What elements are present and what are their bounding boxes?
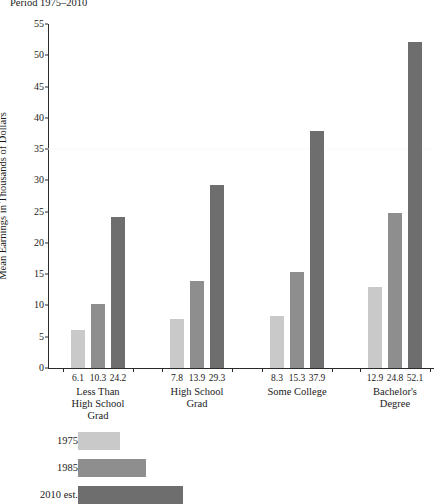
y-tick-label: 40 xyxy=(34,113,44,123)
y-tick-label: 25 xyxy=(34,207,44,217)
bar-value-label: 15.3 xyxy=(289,373,306,384)
chart-title: Period 1975–2010 xyxy=(10,0,87,9)
y-tick-label: 50 xyxy=(34,50,44,60)
bar-value-label: 8.3 xyxy=(271,373,283,384)
bar xyxy=(408,42,422,368)
x-axis-group-label: Bachelor's Degree xyxy=(373,386,418,410)
x-axis-group-tick xyxy=(232,368,233,372)
bar-value-label: 10.3 xyxy=(90,373,107,384)
y-tick-mark xyxy=(45,149,48,150)
x-axis-group-tick xyxy=(162,368,163,372)
bar xyxy=(368,287,382,368)
bar-value-label: 6.1 xyxy=(72,373,84,384)
x-axis-group-tick xyxy=(262,368,263,372)
y-tick-mark xyxy=(45,368,48,369)
bar-value-label: 37.9 xyxy=(309,373,326,384)
y-tick-mark xyxy=(45,305,48,306)
bar-value-label: 12.9 xyxy=(367,373,384,384)
y-tick-label: 5 xyxy=(39,332,44,342)
x-axis-line xyxy=(48,368,434,369)
bar-value-label: 13.9 xyxy=(189,373,206,384)
y-axis-title: Mean Earnings in Thousands of Dollars xyxy=(0,112,8,280)
bar-value-label: 24.2 xyxy=(110,373,127,384)
legend-item: 2010 est. xyxy=(0,486,440,504)
bar xyxy=(310,131,324,368)
bar xyxy=(210,185,224,368)
plot-area: 0510152025303540455055 xyxy=(48,24,434,368)
x-axis-group-label: High School Grad xyxy=(171,386,224,410)
y-tick-mark xyxy=(45,242,48,243)
y-tick-label: 55 xyxy=(34,19,44,29)
y-gridline xyxy=(48,149,434,150)
bar xyxy=(170,319,184,368)
y-tick-label: 0 xyxy=(39,363,44,373)
y-tick-mark xyxy=(45,24,48,25)
legend-item-label: 1985 xyxy=(57,462,78,474)
legend-swatch xyxy=(78,486,183,504)
bar-value-label: 24.8 xyxy=(387,373,404,384)
y-tick-mark xyxy=(45,86,48,87)
bar-value-label: 29.3 xyxy=(209,373,226,384)
bar xyxy=(190,281,204,368)
bar xyxy=(290,272,304,368)
x-axis-group-tick xyxy=(133,368,134,372)
legend-item-label: 1975 xyxy=(57,435,78,447)
x-axis-group-tick xyxy=(430,368,431,372)
x-axis-group-label: Less Than High School Grad xyxy=(72,386,125,422)
legend-item: 1985 xyxy=(0,459,440,477)
bar-value-label: 7.8 xyxy=(171,373,183,384)
y-tick-mark xyxy=(45,180,48,181)
bar xyxy=(91,304,105,368)
legend-item: 1975 xyxy=(0,432,440,450)
y-tick-label: 15 xyxy=(34,269,44,279)
bar-value-label: 52.1 xyxy=(407,373,424,384)
x-axis-group-tick xyxy=(63,368,64,372)
bar xyxy=(388,213,402,368)
legend-swatch xyxy=(78,459,146,477)
bar xyxy=(111,217,125,368)
y-tick-mark xyxy=(45,117,48,118)
y-tick-label: 10 xyxy=(34,300,44,310)
y-tick-mark xyxy=(45,211,48,212)
x-axis-group-tick xyxy=(332,368,333,372)
x-axis-group-tick xyxy=(360,368,361,372)
x-axis-group-label: Some College xyxy=(267,386,326,398)
chart-legend: 197519852010 est. xyxy=(0,432,440,496)
y-tick-mark xyxy=(45,336,48,337)
y-tick-mark xyxy=(45,274,48,275)
y-tick-label: 35 xyxy=(34,144,44,154)
y-tick-mark xyxy=(45,55,48,56)
legend-swatch xyxy=(78,432,120,450)
bar xyxy=(270,316,284,368)
y-tick-label: 30 xyxy=(34,175,44,185)
bar xyxy=(71,330,85,368)
y-tick-label: 20 xyxy=(34,238,44,248)
y-tick-label: 45 xyxy=(34,82,44,92)
legend-item-label: 2010 est. xyxy=(40,489,78,501)
